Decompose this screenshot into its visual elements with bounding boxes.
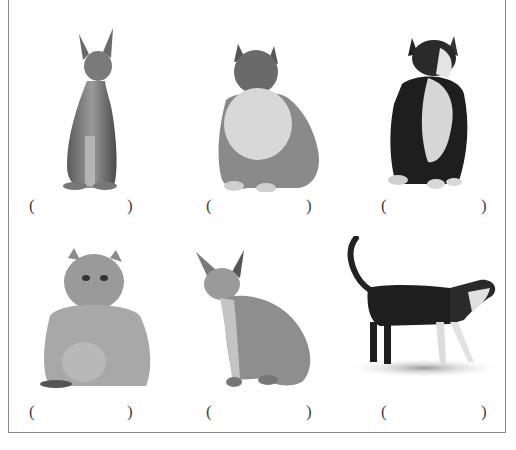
- close-paren: ): [306, 196, 312, 216]
- open-paren: (: [381, 196, 387, 216]
- open-paren: (: [206, 402, 212, 422]
- open-paren: (: [29, 196, 35, 216]
- open-paren: (: [381, 402, 387, 422]
- open-paren: (: [29, 402, 35, 422]
- close-paren: ): [481, 402, 487, 422]
- answer-blank-2[interactable]: ( ): [206, 196, 316, 218]
- answer-blank-1[interactable]: ( ): [29, 196, 134, 218]
- close-paren: ): [127, 196, 133, 216]
- answer-blank-4[interactable]: ( ): [29, 402, 134, 424]
- answer-blank-6[interactable]: ( ): [381, 402, 491, 424]
- answer-blank-5[interactable]: ( ): [206, 402, 316, 424]
- cat-image-persian: [36, 246, 154, 388]
- cat-image-sphynx-sideways: [194, 248, 316, 390]
- open-paren: (: [206, 196, 212, 216]
- close-paren: ): [127, 402, 133, 422]
- close-paren: ): [481, 196, 487, 216]
- cat-image-walking: [340, 236, 502, 380]
- cat-image-fluffy-grey: [218, 40, 320, 192]
- cat-image-sphynx-upright: [55, 26, 125, 191]
- answer-blank-3[interactable]: ( ): [381, 196, 491, 218]
- cat-image-black-white-looking-up: [388, 34, 472, 189]
- close-paren: ): [306, 402, 312, 422]
